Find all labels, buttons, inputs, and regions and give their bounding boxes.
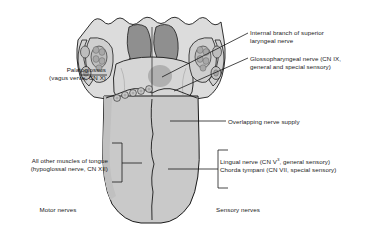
label-all-other-muscles-line2: (hypoglossal nerve, CN XII) xyxy=(4,165,108,173)
label-palatoglossus-line2: (vagus verve, CN X) xyxy=(6,74,106,82)
label-lingual-nerve-prefix: Lingual nerve (CN V xyxy=(220,158,277,165)
label-all-other-muscles-line1: All other muscles of tongue xyxy=(4,157,108,165)
label-internal-laryngeal-nerve: Internal branch of superior laryngeal ne… xyxy=(250,29,324,45)
label-chorda-tympani-line1: Chorda tympani (CN VII, special sensory) xyxy=(220,166,336,174)
label-palatoglossus-line1: Palatoglossus xyxy=(6,66,106,74)
label-sensory-nerves: Sensory nerves xyxy=(196,206,280,214)
label-lingual-nerve-suffix: , general sensory) xyxy=(279,158,330,165)
label-sensory-nerves-line1: Sensory nerves xyxy=(196,206,280,214)
label-glossopharyngeal-nerve-line1: Glossopharyngeal nerve (CN IX, xyxy=(250,55,341,63)
label-all-other-muscles: All other muscles of tongue (hypoglossal… xyxy=(4,157,108,173)
label-internal-laryngeal-nerve-line2: laryngeal nerve xyxy=(250,37,324,45)
lingual-tonsil xyxy=(148,65,172,87)
label-glossopharyngeal-nerve: Glossopharyngeal nerve (CN IX, general a… xyxy=(250,55,341,71)
label-lingual-nerve: Lingual nerve (CN V3, general sensory) xyxy=(220,158,330,166)
label-palatoglossus: Palatoglossus (vagus verve, CN X) xyxy=(6,66,106,82)
label-chorda-tympani: Chorda tympani (CN VII, special sensory) xyxy=(220,166,336,174)
label-overlapping-nerve-supply: Overlapping nerve supply xyxy=(228,118,300,126)
label-motor-nerves-line1: Motor nerves xyxy=(20,206,96,214)
tongue-innervation-figure: Internal branch of superior laryngeal ne… xyxy=(0,0,373,232)
label-motor-nerves: Motor nerves xyxy=(20,206,96,214)
label-overlapping-nerve-supply-line1: Overlapping nerve supply xyxy=(228,118,300,126)
label-internal-laryngeal-nerve-line1: Internal branch of superior xyxy=(250,29,324,37)
label-glossopharyngeal-nerve-line2: general and special sensory) xyxy=(250,63,341,71)
